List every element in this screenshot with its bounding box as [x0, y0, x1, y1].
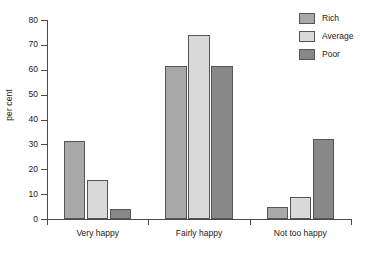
legend-item[interactable]: Poor [299, 48, 340, 61]
bar [110, 209, 132, 219]
legend-item-label: Poor [322, 50, 340, 59]
y-axis-tick-label: 40 [0, 115, 38, 124]
bar [188, 35, 210, 219]
x-axis-group-label: Not too happy [250, 228, 351, 238]
y-axis-tick-label: 60 [0, 65, 38, 74]
legend-item-label: Rich [322, 14, 339, 23]
bar [64, 141, 86, 219]
x-axis-tick [47, 219, 48, 225]
bar [165, 66, 187, 219]
bar [211, 66, 233, 219]
legend-swatch-icon [299, 13, 315, 24]
x-axis-line [47, 219, 351, 220]
legend-swatch-icon [299, 49, 315, 60]
y-axis-tick-label: 50 [0, 90, 38, 99]
legend-item[interactable]: Rich [299, 12, 339, 25]
y-axis-title: per cent [4, 75, 14, 135]
y-axis-tick-label: 20 [0, 165, 38, 174]
y-axis-tick-label: 70 [0, 40, 38, 49]
legend-item[interactable]: Average [299, 30, 354, 43]
bar-chart: per cent 01020304050607080 Very happyFai… [0, 0, 368, 255]
x-axis-group-label: Fairly happy [148, 228, 249, 238]
bar [267, 207, 289, 219]
x-axis-tick [351, 219, 352, 225]
legend-item-label: Average [322, 32, 354, 41]
y-axis-tick-label: 10 [0, 190, 38, 199]
bar [290, 197, 312, 219]
y-axis-tick-label: 0 [0, 215, 38, 224]
y-axis-tick-label: 30 [0, 140, 38, 149]
bar [87, 180, 109, 219]
legend-swatch-icon [299, 31, 315, 42]
x-axis-group-label: Very happy [47, 228, 148, 238]
x-axis-tick [148, 219, 149, 225]
bar [313, 139, 335, 219]
x-axis-tick [250, 219, 251, 225]
y-axis-tick-label: 80 [0, 16, 38, 25]
